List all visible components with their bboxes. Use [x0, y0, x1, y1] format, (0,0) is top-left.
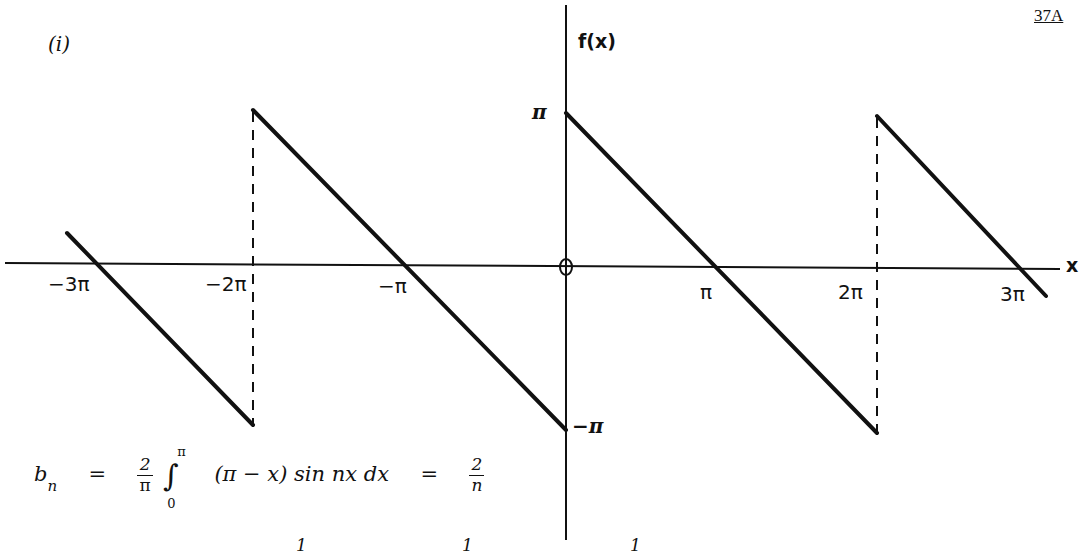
formula-lhs-subscript: n — [47, 477, 57, 495]
x-tick-3pi: 3π — [1000, 282, 1025, 306]
integral-sign: ∫π0 — [163, 458, 179, 493]
y-tick-minus-pi: −π — [572, 414, 603, 438]
coefficient-numerator: 2 — [137, 455, 152, 476]
page-number: 37A — [1034, 6, 1063, 26]
x-axis — [5, 263, 1060, 269]
bottom-partial-3: 1 — [630, 535, 641, 552]
y-axis-label: f(x) — [578, 30, 616, 52]
integral-upper-limit: π — [177, 444, 186, 459]
formula-integrand: (π − x) sin nx dx — [214, 462, 389, 486]
sawtooth-segment-1 — [67, 233, 253, 425]
sawtooth-segment-3 — [566, 113, 877, 433]
x-tick-minus-3pi: −3π — [48, 272, 90, 296]
formula-result: 2 n — [469, 455, 484, 495]
fourier-coefficient-formula: bn = 2 π ∫π0 (π − x) sin nx dx = 2 n — [34, 455, 484, 495]
formula-lhs: b — [34, 462, 47, 486]
x-tick-minus-pi: −π — [378, 274, 407, 298]
formula-equals-1: = — [89, 462, 107, 486]
integral-lower-limit: 0 — [167, 496, 175, 511]
x-tick-pi: π — [700, 280, 712, 304]
formula-coefficient: 2 π — [137, 455, 152, 495]
coefficient-denominator: π — [137, 476, 152, 496]
y-tick-pi: π — [532, 100, 547, 124]
figure-label: (i) — [48, 32, 70, 56]
x-tick-2pi: 2π — [838, 280, 863, 304]
formula-equals-2: = — [420, 462, 438, 486]
result-numerator: 2 — [469, 455, 484, 476]
sawtooth-segment-2 — [253, 110, 566, 430]
x-axis-label: x — [1066, 254, 1078, 276]
x-tick-minus-2pi: −2π — [205, 272, 247, 296]
bottom-partial-2: 1 — [462, 535, 473, 552]
bottom-partial-1: 1 — [296, 535, 307, 552]
result-denominator: n — [469, 476, 484, 496]
